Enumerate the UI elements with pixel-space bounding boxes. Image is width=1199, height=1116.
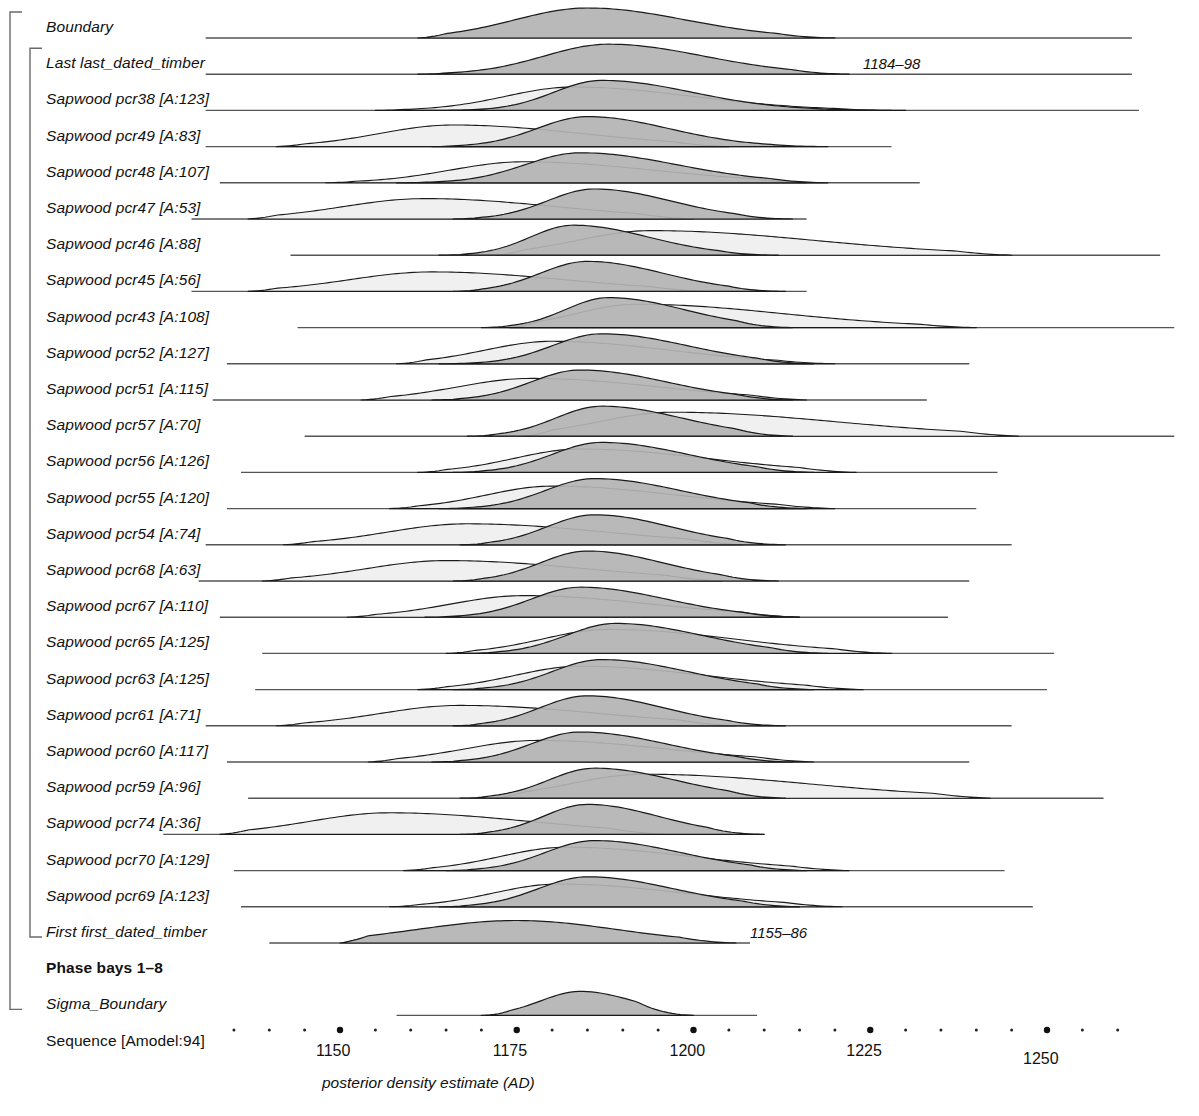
axis-minor-tick	[621, 1029, 624, 1032]
axis-minor-tick	[480, 1029, 483, 1032]
axis-minor-tick	[904, 1029, 907, 1032]
row-label-sapwood-pcr70-a-129[interactable]: Sapwood pcr70 [A:129]	[46, 851, 209, 869]
row-label-sapwood-pcr38-a-123[interactable]: Sapwood pcr38 [A:123]	[46, 90, 209, 108]
row-label-sapwood-pcr51-a-115[interactable]: Sapwood pcr51 [A:115]	[46, 380, 208, 398]
axis-minor-tick	[939, 1029, 942, 1032]
axis-minor-tick	[798, 1029, 801, 1032]
row-label-boundary[interactable]: Boundary	[46, 18, 113, 36]
sequence-bracket	[10, 12, 22, 1009]
row-label-sapwood-pcr46-a-88[interactable]: Sapwood pcr46 [A:88]	[46, 235, 201, 253]
posterior-density-curve	[467, 623, 828, 653]
axis-tick-label: 1250	[1023, 1050, 1059, 1068]
axis-minor-tick	[657, 1029, 660, 1032]
row-label-sapwood-pcr45-a-56[interactable]: Sapwood pcr45 [A:56]	[46, 271, 201, 289]
row-label-sapwood-pcr61-a-71[interactable]: Sapwood pcr61 [A:71]	[46, 706, 201, 724]
row-label-sapwood-pcr43-a-108[interactable]: Sapwood pcr43 [A:108]	[46, 308, 209, 326]
row-label-last-last-dated-timber[interactable]: Last last_dated_timber	[46, 54, 205, 72]
posterior-density-curve	[340, 921, 736, 944]
axis-major-tick	[690, 1027, 696, 1033]
axis-minor-tick	[232, 1029, 235, 1032]
axis-minor-tick	[1010, 1029, 1013, 1032]
posterior-density-curve	[481, 991, 693, 1015]
axis-major-tick	[514, 1027, 520, 1033]
axis-major-tick	[867, 1027, 873, 1033]
axis-tick-label: 1150	[316, 1042, 350, 1060]
posterior-density-curve	[418, 8, 835, 38]
row-label-sapwood-pcr60-a-117[interactable]: Sapwood pcr60 [A:117]	[46, 742, 208, 760]
row-label-sapwood-pcr69-a-123[interactable]: Sapwood pcr69 [A:123]	[46, 887, 209, 905]
axis-minor-tick	[303, 1029, 306, 1032]
posterior-density-curve	[446, 841, 807, 871]
posterior-density-curve	[439, 877, 800, 907]
row-label-sapwood-pcr68-a-63[interactable]: Sapwood pcr68 [A:63]	[46, 561, 201, 579]
axis-minor-tick	[586, 1029, 589, 1032]
axis-minor-tick	[409, 1029, 412, 1032]
x-axis-caption: posterior density estimate (AD)	[322, 1074, 535, 1092]
row-label-first-first-dated-timber[interactable]: First first_dated_timber	[46, 923, 207, 941]
posterior-density-curve	[418, 44, 849, 74]
range-label: 1155–86	[750, 924, 807, 941]
axis-minor-tick	[763, 1029, 766, 1032]
axis-tick-label: 1225	[846, 1042, 882, 1060]
axis-minor-tick	[551, 1029, 554, 1032]
axis-major-tick	[1044, 1027, 1050, 1033]
axis-minor-tick	[975, 1029, 978, 1032]
posterior-density-curve	[453, 660, 814, 690]
row-label-sapwood-pcr48-a-107[interactable]: Sapwood pcr48 [A:107]	[46, 163, 209, 181]
row-label-sapwood-pcr57-a-70[interactable]: Sapwood pcr57 [A:70]	[46, 416, 201, 434]
axis-minor-tick	[1116, 1029, 1119, 1032]
axis-minor-tick	[1081, 1029, 1084, 1032]
row-label-sapwood-pcr65-a-125[interactable]: Sapwood pcr65 [A:125]	[46, 633, 209, 651]
row-label-sapwood-pcr52-a-127[interactable]: Sapwood pcr52 [A:127]	[46, 344, 209, 362]
phase-bracket	[30, 48, 42, 937]
posterior-density-curve	[453, 442, 814, 472]
row-label-sapwood-pcr47-a-53[interactable]: Sapwood pcr47 [A:53]	[46, 199, 201, 217]
range-label: 1184–98	[863, 55, 920, 72]
row-label-sapwood-pcr59-a-96[interactable]: Sapwood pcr59 [A:96]	[46, 778, 201, 796]
axis-minor-tick	[727, 1029, 730, 1032]
row-label-sigma-boundary[interactable]: Sigma_Boundary	[46, 995, 166, 1013]
row-label-phase-bays-1-8[interactable]: Phase bays 1–8	[46, 959, 163, 977]
axis-major-tick	[337, 1027, 343, 1033]
row-label-sapwood-pcr56-a-126[interactable]: Sapwood pcr56 [A:126]	[46, 452, 209, 470]
axis-minor-tick	[445, 1029, 448, 1032]
row-label-sapwood-pcr74-a-36[interactable]: Sapwood pcr74 [A:36]	[46, 814, 201, 832]
axis-minor-tick	[374, 1029, 377, 1032]
axis-minor-tick	[268, 1029, 271, 1032]
row-label-sapwood-pcr63-a-125[interactable]: Sapwood pcr63 [A:125]	[46, 670, 209, 688]
row-label-sapwood-pcr54-a-74[interactable]: Sapwood pcr54 [A:74]	[46, 525, 201, 543]
row-label-sapwood-pcr67-a-110[interactable]: Sapwood pcr67 [A:110]	[46, 597, 208, 615]
oxcal-plot-canvas: BoundaryLast last_dated_timber1184–98Sap…	[0, 0, 1199, 1116]
axis-tick-label: 1200	[670, 1042, 706, 1060]
row-label-sapwood-pcr55-a-120[interactable]: Sapwood pcr55 [A:120]	[46, 489, 209, 507]
axis-minor-tick	[833, 1029, 836, 1032]
row-label-sapwood-pcr49-a-83[interactable]: Sapwood pcr49 [A:83]	[46, 127, 201, 145]
axis-tick-label: 1175	[493, 1042, 527, 1060]
row-label-sequence-amodel-94[interactable]: Sequence [Amodel:94]	[46, 1032, 205, 1050]
